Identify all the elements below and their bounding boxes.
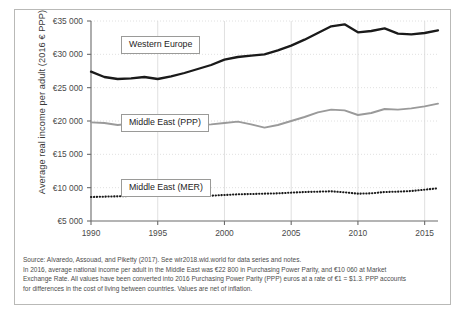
figure-notes: Source: Alvaredo, Assouad, and Piketty (… <box>23 256 443 294</box>
series-label-western-europe: Western Europe <box>121 36 200 54</box>
svg-text:2000: 2000 <box>215 228 234 238</box>
svg-text:1990: 1990 <box>82 228 101 238</box>
svg-text:1995: 1995 <box>148 228 167 238</box>
svg-text:2010: 2010 <box>349 228 368 238</box>
svg-text:€35 000: €35 000 <box>53 16 84 26</box>
svg-text:€20 000: €20 000 <box>53 116 84 126</box>
svg-text:€15 000: €15 000 <box>53 149 84 159</box>
line-chart-plot: €5 000€10 000€15 000€20 000€25 000€30 00… <box>14 9 451 253</box>
note-line-source: Source: Alvaredo, Assouad, and Piketty (… <box>23 256 443 265</box>
svg-text:€30 000: €30 000 <box>53 49 84 59</box>
figure-root: Average real income per adult (2016 € PP… <box>0 0 466 322</box>
svg-text:€5 000: €5 000 <box>57 216 83 226</box>
series-label-middle-east-mer: Middle East (MER) <box>121 179 211 197</box>
note-line-3: for differences in the cost of living be… <box>23 285 443 294</box>
svg-text:2015: 2015 <box>415 228 434 238</box>
note-line-2: Exchange Rate. All values have been conv… <box>23 275 443 284</box>
svg-text:€10 000: €10 000 <box>53 183 84 193</box>
figure-bottom-rule <box>14 304 451 305</box>
svg-text:2005: 2005 <box>282 228 301 238</box>
note-line-1: In 2016, average national income per adu… <box>23 266 443 275</box>
chart-area: Average real income per adult (2016 € PP… <box>14 9 451 253</box>
series-label-middle-east-ppp: Middle East (PPP) <box>121 114 209 132</box>
svg-text:€25 000: €25 000 <box>53 83 84 93</box>
